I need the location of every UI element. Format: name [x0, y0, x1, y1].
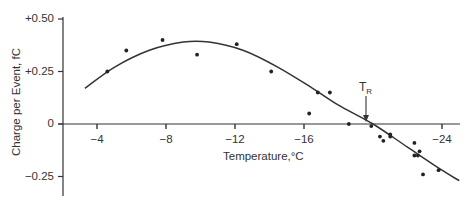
y-tick-label: 0 [2, 117, 54, 129]
data-point [413, 141, 417, 145]
data-point [347, 122, 351, 126]
x-axis-label: Temperature,°C [223, 150, 304, 162]
y-tick-label: −0.25 [2, 170, 54, 182]
data-point [437, 168, 441, 172]
data-point [307, 112, 311, 116]
data-point [378, 135, 382, 139]
x-tick-label: −24 [432, 133, 452, 145]
x-tick-label: −8 [159, 133, 172, 145]
data-point [369, 124, 373, 128]
tr-annotation-label: TR [359, 80, 372, 96]
x-tick-label: −4 [90, 133, 103, 145]
x-tick-label: −12 [225, 133, 245, 145]
data-point [316, 91, 320, 95]
data-point [105, 70, 109, 74]
tr-label-sub: R [366, 87, 372, 96]
data-point [235, 42, 239, 46]
data-point [195, 53, 199, 57]
data-point [124, 49, 128, 53]
data-point [328, 91, 332, 95]
data-point [418, 149, 422, 153]
y-tick-label: +0.25 [2, 65, 54, 77]
data-point [161, 38, 165, 42]
y-tick-label: +0.50 [2, 12, 54, 24]
data-point [269, 70, 273, 74]
data-point [413, 154, 417, 158]
data-point [421, 173, 425, 177]
y-tick-marks [58, 19, 63, 177]
data-point [381, 139, 385, 143]
data-point [388, 135, 392, 139]
chart-canvas [0, 0, 476, 204]
x-tick-marks [97, 124, 442, 129]
data-point [416, 154, 420, 158]
x-tick-label: −16 [294, 133, 314, 145]
